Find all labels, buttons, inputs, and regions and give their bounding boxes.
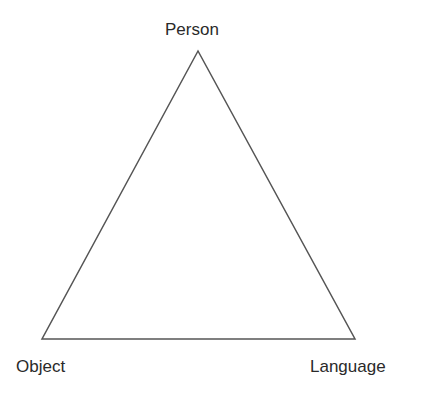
vertex-label-person: Person xyxy=(165,21,219,38)
triangle-diagram: Person Object Language xyxy=(0,0,424,400)
vertex-label-object: Object xyxy=(16,358,65,375)
vertex-label-language: Language xyxy=(310,358,386,375)
triangle-shape xyxy=(0,0,424,400)
